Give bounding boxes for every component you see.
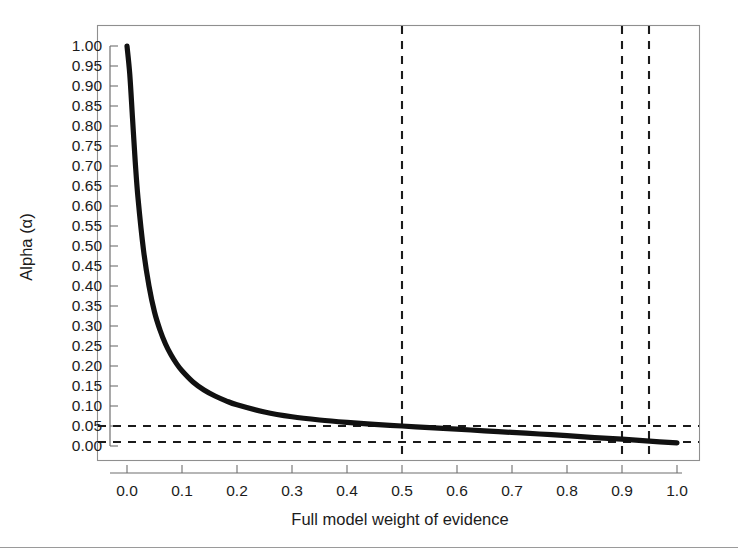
y-axis-title: Alpha (α) [17, 213, 35, 280]
y-tick-label: 0.35 [72, 297, 102, 314]
y-tick-label: 0.50 [72, 237, 103, 254]
y-tick-label: 0.15 [72, 377, 102, 394]
y-tick-label: 0.95 [72, 57, 102, 74]
y-tick-label: 0.55 [72, 217, 102, 234]
y-tick-label: 0.30 [72, 317, 103, 334]
x-tick-label: 0.1 [171, 482, 193, 499]
x-axis: 0.0 0.1 0.2 0.3 0.4 0.5 0.6 0.7 0.8 0.9 … [110, 465, 688, 528]
alpha-decay-chart: 0.00 0.05 0.10 0.15 0.20 0.25 0.30 0.35 … [0, 0, 738, 558]
x-tick-labels: 0.0 0.1 0.2 0.3 0.4 0.5 0.6 0.7 0.8 0.9 … [116, 482, 688, 499]
x-tick-label: 0.7 [501, 482, 523, 499]
x-tick-label: 0.9 [611, 482, 633, 499]
y-tick-label: 0.80 [72, 117, 103, 134]
y-tick-label: 0.20 [72, 357, 103, 374]
y-tick-marks [110, 46, 118, 446]
x-tick-label: 1.0 [666, 482, 688, 499]
y-axis: 0.00 0.05 0.10 0.15 0.20 0.25 0.30 0.35 … [17, 37, 118, 454]
y-tick-label: 0.65 [72, 177, 102, 194]
y-tick-label: 0.40 [72, 277, 103, 294]
x-tick-label: 0.8 [556, 482, 578, 499]
x-tick-marks [127, 465, 677, 473]
x-tick-label: 0.4 [336, 482, 358, 499]
y-tick-labels: 0.00 0.05 0.10 0.15 0.20 0.25 0.30 0.35 … [72, 37, 103, 454]
x-tick-label: 0.5 [391, 482, 413, 499]
y-tick-label: 0.00 [72, 437, 103, 454]
footer-divider [0, 547, 738, 548]
figure-root: 0.00 0.05 0.10 0.15 0.20 0.25 0.30 0.35 … [0, 0, 738, 558]
y-tick-label: 0.25 [72, 337, 102, 354]
x-tick-label: 0.6 [446, 482, 468, 499]
x-axis-title: Full model weight of evidence [291, 510, 508, 528]
y-tick-label: 0.70 [72, 157, 103, 174]
plot-frame [98, 26, 700, 461]
x-tick-label: 0.2 [226, 482, 248, 499]
y-tick-label: 0.45 [72, 257, 102, 274]
x-tick-label: 0.3 [281, 482, 303, 499]
reference-lines [98, 26, 699, 459]
y-tick-label: 0.75 [72, 137, 102, 154]
y-tick-label: 0.85 [72, 97, 102, 114]
x-tick-label: 0.0 [116, 482, 138, 499]
y-tick-label: 0.60 [72, 197, 103, 214]
y-tick-label: 0.05 [72, 417, 102, 434]
y-tick-label: 0.90 [72, 77, 103, 94]
y-tick-label: 0.10 [72, 397, 103, 414]
y-tick-label: 1.00 [72, 37, 103, 54]
